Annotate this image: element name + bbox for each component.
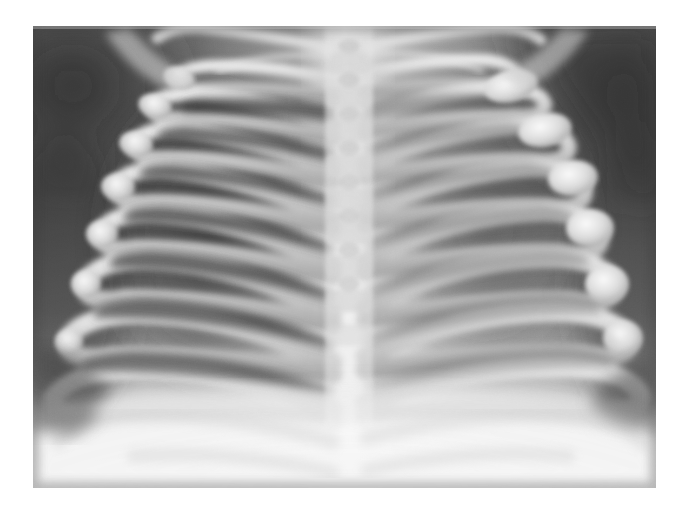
film-grain-overlay: [33, 26, 656, 488]
radiograph-image: Grayscale anteroposterior chest radiogra…: [33, 26, 656, 488]
radiograph-canvas: [33, 26, 656, 488]
page-root: Grayscale anteroposterior chest radiogra…: [0, 0, 686, 508]
top-edge-highlight: [33, 26, 656, 29]
